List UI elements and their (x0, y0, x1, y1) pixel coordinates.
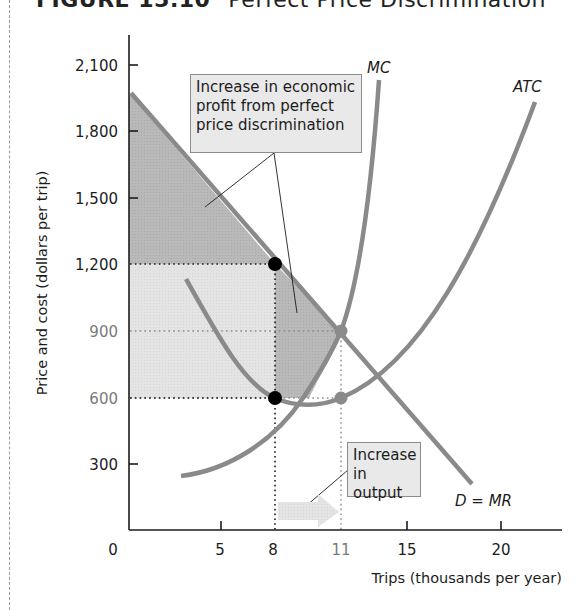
output-note-line-1: Increase (353, 446, 415, 465)
point-8-600 (268, 391, 282, 405)
point-11-600 (335, 392, 348, 405)
y-tick-label-1500: 1,500 (75, 190, 118, 208)
y-tick-label-900: 900 (89, 323, 118, 341)
point-8-1200 (268, 257, 282, 271)
x-tick-label-0: 0 (108, 541, 118, 559)
output-increase-arrow (278, 494, 339, 527)
point-11-900 (335, 325, 348, 338)
demand-mr-label: D = MR (455, 492, 512, 510)
leader-line-profit-upper (205, 153, 274, 207)
leader-line-output (306, 470, 348, 506)
output-note-line-2: in output (353, 465, 415, 503)
atc-label: ATC (512, 78, 542, 96)
output-increase-note: Increase in output (347, 442, 421, 497)
profit-note-line-3: price discrimination (196, 116, 356, 135)
x-tick-label-15: 15 (397, 541, 416, 559)
y-tick-label-2100: 2,100 (75, 57, 118, 75)
y-tick-label-300: 300 (89, 456, 118, 474)
y-axis-title: Price and cost (dollars per trip) (34, 171, 50, 396)
x-tick-label-20: 20 (491, 541, 510, 559)
x-axis-title: Trips (thousands per year) (371, 570, 562, 586)
x-tick-label-8: 8 (268, 541, 278, 559)
y-tick-label-600: 600 (89, 390, 118, 408)
y-tick-label-1800: 1,800 (75, 123, 118, 141)
y-tick-label-1200: 1,200 (75, 256, 118, 274)
x-tick-label-5: 5 (215, 541, 225, 559)
profit-note-line-1: Increase in economic (196, 78, 356, 97)
mc-label: MC (367, 59, 391, 77)
profit-note-line-2: profit from perfect (196, 97, 356, 116)
profit-increase-note: Increase in economic profit from perfect… (190, 74, 362, 153)
x-tick-label-11: 11 (331, 541, 350, 559)
